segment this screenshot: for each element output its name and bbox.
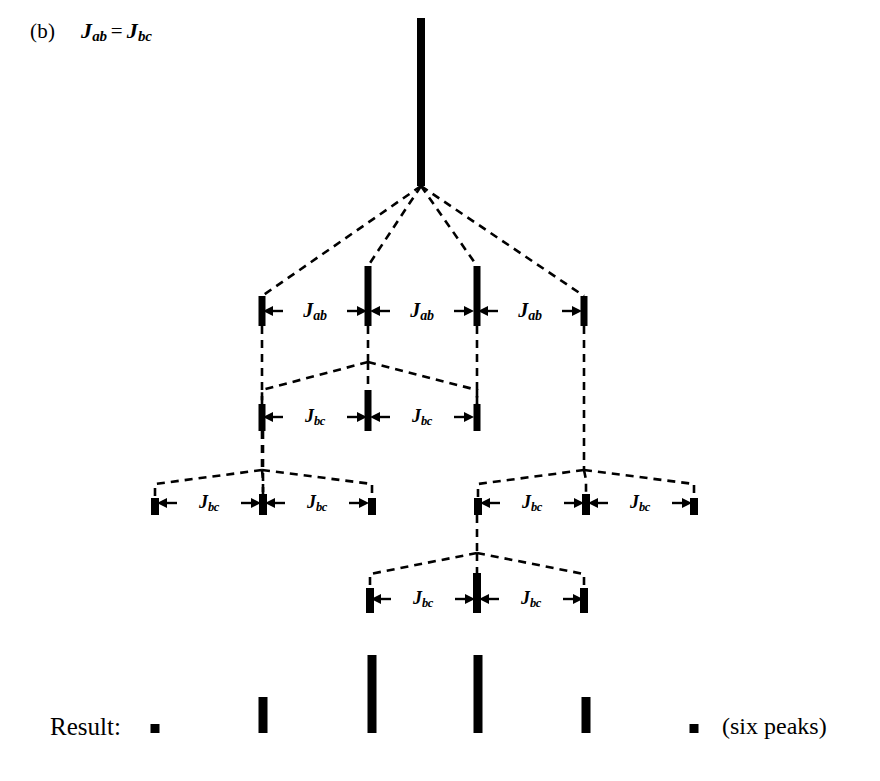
connector-root-to-quartet — [421, 186, 584, 296]
connector-l1-to-l2-branch — [262, 362, 368, 404]
result-peak — [690, 724, 699, 733]
result-peak-lines — [151, 655, 699, 733]
peak-line-triplet-J-bc-right — [474, 498, 482, 515]
peak-line-triplet-J-bc-left — [368, 498, 376, 515]
peak-line-triplet-J-bc-from-peak2 — [474, 404, 481, 431]
connector-l2-to-l3right-branch — [584, 470, 586, 494]
peak-lines — [151, 18, 698, 613]
peak-line-triplet-J-bc-right — [690, 498, 698, 515]
splitting-diagram-canvas: (b)Jab=Jbc Result: (six peaks) JabJabJab… — [0, 0, 880, 781]
result-note: (six peaks) — [722, 713, 827, 740]
result-peak — [474, 655, 483, 733]
result-peak — [582, 697, 591, 733]
peak-line-triplet-J-bc-right — [582, 494, 590, 515]
result-peak — [259, 697, 268, 733]
peak-line-triplet-J-bc-from-peak3 — [473, 573, 481, 613]
peak-line-quartet-J-ab — [474, 266, 481, 326]
peak-line-triplet-J-bc-left — [151, 498, 159, 515]
peak-line-triplet-J-bc-left — [259, 494, 267, 515]
connector-l2-to-l3right-branch — [584, 470, 694, 498]
peak-line-quartet-J-ab — [365, 266, 372, 326]
result-peak — [368, 655, 377, 733]
connector-root-to-quartet — [368, 186, 421, 266]
connector-to-bottom-triplet-branch — [370, 553, 477, 588]
connector-l2-to-l3left-branch — [262, 470, 372, 498]
connector-root-to-quartet — [421, 186, 477, 266]
peak-line-triplet-J-bc-from-peak3 — [580, 588, 588, 613]
connector-l2-to-l3left-branch — [155, 470, 262, 498]
peak-line-triplet-J-bc-from-peak2 — [365, 390, 372, 431]
connector-l1-to-l2-branch — [368, 362, 477, 404]
result-peak — [151, 724, 160, 733]
splitting-tree-svg — [0, 0, 880, 781]
coupling-arrows — [157, 306, 692, 604]
result-label: Result: — [50, 713, 121, 741]
peak-line-triplet-J-bc-from-peak3 — [366, 588, 374, 613]
peak-line-root — [417, 18, 425, 186]
connector-root-to-quartet — [262, 186, 421, 296]
connector-to-bottom-triplet-branch — [477, 553, 584, 588]
dashed-connectors — [155, 186, 694, 588]
connector-l2-to-l3right-branch — [478, 470, 584, 498]
